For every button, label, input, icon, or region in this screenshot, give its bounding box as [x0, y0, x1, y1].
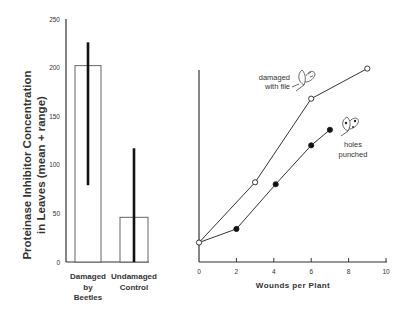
category-label: Control [120, 283, 148, 292]
leaf-punched-icon [341, 117, 358, 136]
data-point-filled [273, 182, 278, 187]
x-tick-label: 10 [382, 268, 390, 275]
x-tick-label: 6 [309, 268, 313, 275]
data-point-filled [327, 127, 332, 132]
annotation-label-line1: damaged [259, 73, 290, 82]
y-tick-label: 100 [49, 161, 60, 168]
x-tick-label: 4 [272, 268, 276, 275]
x-tick-label: 2 [235, 268, 239, 275]
y-tick-label: 250 [49, 16, 60, 23]
y-axis-label-line2: in Leaves (mean + range) [35, 96, 47, 234]
data-point-filled [234, 226, 239, 231]
data-point-open [196, 240, 201, 245]
y-tick-label: 0 [56, 259, 60, 266]
line-chart: 0246810 Wounds per Plant damaged with fi… [196, 66, 390, 290]
category-label: Undamaged [111, 272, 157, 281]
y-tick-label: 150 [49, 113, 60, 120]
data-point-open [253, 180, 258, 185]
category-label: Beetles [74, 293, 103, 302]
annotation-holes-punched: holes punched [339, 117, 368, 159]
y-tick-label: 50 [53, 210, 61, 217]
annotation-label-line2: with file [264, 82, 290, 91]
x-tick-labels: 0246810 [197, 258, 390, 275]
category-label: by [83, 283, 93, 292]
annotation-pointer [292, 84, 299, 87]
annotation-label-line2: punched [339, 150, 368, 159]
category-labels: DamagedbyBeetlesUndamagedControl [70, 272, 157, 302]
data-point-open [309, 96, 314, 101]
y-tick-label: 200 [49, 64, 60, 71]
bars [75, 42, 148, 262]
category-label: Damaged [70, 272, 106, 281]
y-tick-labels: 050100150200250 [49, 16, 60, 266]
annotation-damaged-with-file: damaged with file [259, 70, 315, 91]
y-axis-label-line1: Proteinase Inhibitor Concentration [21, 70, 33, 259]
x-axis-label: Wounds per Plant [256, 281, 330, 290]
x-tick-label: 0 [197, 268, 201, 275]
data-point-filled [309, 143, 314, 148]
figure: Proteinase Inhibitor Concentration in Le… [0, 0, 399, 315]
leaf-filed-icon [296, 70, 315, 91]
x-tick-label: 8 [347, 268, 351, 275]
annotation-label-line1: holes [344, 140, 362, 149]
data-point-open [365, 66, 370, 71]
bar-chart: Proteinase Inhibitor Concentration in Le… [21, 16, 157, 303]
